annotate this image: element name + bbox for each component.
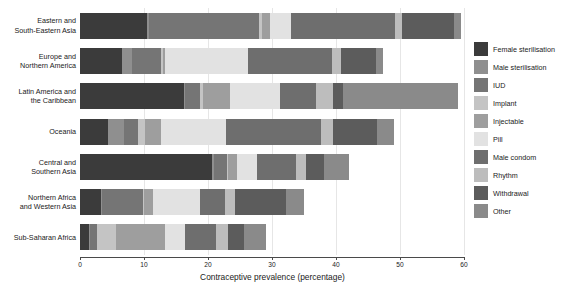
legend-item[interactable]: Female sterilisation [474, 40, 566, 58]
y-axis-label-line: Eastern and [0, 16, 76, 25]
bar-segment [321, 119, 334, 145]
x-axis-tick-label: 30 [268, 261, 275, 268]
bar-segment [235, 189, 286, 215]
bar-segment [200, 189, 224, 215]
bar-segment [291, 13, 396, 39]
bar-segment [161, 119, 226, 145]
bar-segment [216, 224, 229, 250]
bar-segment [377, 119, 394, 145]
y-axis-label-line: Oceania [0, 127, 76, 136]
bar-segment [214, 154, 227, 180]
bar-segment [80, 119, 108, 145]
x-axis-tick [400, 257, 401, 260]
bar-segment [97, 224, 116, 250]
bar-segment [132, 48, 160, 74]
legend-label: IUD [493, 81, 505, 90]
bar-row [80, 119, 394, 145]
bar-segment [270, 13, 290, 39]
bar-segment [108, 119, 125, 145]
legend-item[interactable]: Male condom [474, 148, 566, 166]
bar-segment [102, 189, 143, 215]
y-axis-label: Latin America andthe Caribbean [0, 87, 76, 105]
bar-segment [80, 154, 212, 180]
legend-swatch-icon [474, 150, 488, 164]
legend-swatch-icon [474, 96, 488, 110]
x-axis-tick [208, 257, 209, 260]
bar-segment [149, 13, 259, 39]
bar-row [80, 13, 461, 39]
bar-segment [262, 13, 270, 39]
y-axis-label-line: South-Eastern Asia [0, 26, 76, 35]
legend-item[interactable]: Rhythm [474, 166, 566, 184]
legend-label: Rhythm [493, 171, 518, 180]
y-axis-label-line: Southern Asia [0, 167, 76, 176]
legend-item[interactable]: IUD [474, 76, 566, 94]
x-axis-tick-label: 10 [140, 261, 147, 268]
y-axis-label-line: Latin America and [0, 87, 76, 96]
legend-label: Male sterilisation [493, 63, 547, 72]
legend-swatch-icon [474, 78, 488, 92]
bar-segment [90, 224, 98, 250]
bar-segment [376, 48, 384, 74]
bar-segment [230, 83, 280, 109]
bar-segment [225, 189, 236, 215]
y-axis-label-line: the Caribbean [0, 96, 76, 105]
legend: Female sterilisationMale sterilisationIU… [474, 40, 566, 220]
legend-label: Implant [493, 99, 517, 108]
y-axis-label: Eastern andSouth-Eastern Asia [0, 16, 76, 34]
bar-segment [80, 48, 122, 74]
legend-item[interactable]: Withdrawal [474, 184, 566, 202]
bar-segment [332, 48, 341, 74]
legend-label: Pill [493, 135, 503, 144]
y-axis-label-line: Europe and [0, 52, 76, 61]
bar-segment [153, 189, 200, 215]
y-axis-label: Oceania [0, 127, 76, 136]
bar-segment [226, 119, 321, 145]
y-axis-labels: Eastern andSouth-Eastern AsiaEurope andN… [0, 8, 76, 255]
legend-swatch-icon [474, 114, 488, 128]
bar-segment [145, 119, 161, 145]
bar-segment [228, 154, 237, 180]
x-axis-tick [272, 257, 273, 260]
bar-segment [341, 48, 376, 74]
x-axis-tick [336, 257, 337, 260]
x-axis-title: Contraceptive prevalence (percentage) [80, 272, 465, 282]
legend-label: Other [493, 207, 511, 216]
bar-segment [402, 13, 454, 39]
bar-segment [185, 224, 216, 250]
y-axis-label-line: Sub-Saharan Africa [0, 233, 76, 242]
bar-segment [122, 48, 132, 74]
bar-segment [316, 83, 333, 109]
y-axis-label: Sub-Saharan Africa [0, 233, 76, 242]
legend-item[interactable]: Injectable [474, 112, 566, 130]
x-axis-tick [80, 257, 81, 260]
bar-segment [228, 224, 243, 250]
legend-swatch-icon [474, 168, 488, 182]
bar-segment [124, 119, 137, 145]
bar-segment [144, 189, 153, 215]
legend-item[interactable]: Implant [474, 94, 566, 112]
bar-segment [244, 224, 266, 250]
x-axis-tick-label: 60 [460, 261, 467, 268]
bar-segment [80, 13, 147, 39]
bar-segment [324, 154, 349, 180]
legend-swatch-icon [474, 60, 488, 74]
y-axis-label: Central andSouthern Asia [0, 158, 76, 176]
bar-segment [165, 48, 248, 74]
bar-row [80, 189, 304, 215]
legend-item[interactable]: Male sterilisation [474, 58, 566, 76]
bar-segment [80, 224, 89, 250]
legend-item[interactable]: Pill [474, 130, 566, 148]
x-axis-tick-label: 0 [78, 261, 82, 268]
bar-segment [80, 189, 101, 215]
bar-segment [116, 224, 165, 250]
legend-item[interactable]: Other [474, 202, 566, 220]
y-axis-label-line: Northern Africa [0, 193, 76, 202]
x-axis-tick [144, 257, 145, 260]
bar-row [80, 83, 458, 109]
bar-segment [80, 83, 184, 109]
bar-segment [296, 154, 306, 180]
legend-swatch-icon [474, 42, 488, 56]
plot-area [80, 8, 464, 255]
bar-segment [454, 13, 461, 39]
